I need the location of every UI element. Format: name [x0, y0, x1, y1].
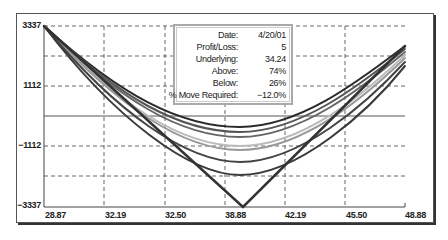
y-tick-label: 1112: [3, 80, 41, 90]
info-value-underlying: 34.24: [265, 54, 286, 64]
info-box: Date: 4/20/01 Profit/Loss: 5 Underlying:…: [173, 24, 293, 105]
info-value-below: 26%: [269, 78, 286, 88]
x-tick-label: 32.19: [105, 210, 126, 220]
y-tick-label: −1112: [3, 140, 41, 150]
info-value-profit-loss: 5: [281, 42, 286, 52]
info-label-above: Above:: [212, 66, 238, 76]
info-value-above: 74%: [269, 66, 286, 76]
x-tick-label: 38.88: [225, 210, 246, 220]
info-label-underlying: Underlying:: [196, 54, 238, 64]
info-value-date: 4/20/01: [258, 30, 286, 40]
info-label-move-required: % Move Required:: [169, 90, 238, 100]
info-label-profit-loss: Profit/Loss:: [197, 42, 238, 52]
info-label-date: Date:: [218, 30, 238, 40]
x-tick-label: 32.50: [165, 210, 186, 220]
x-tick-label: 48.88: [405, 210, 426, 220]
x-tick-label: 42.19: [285, 210, 306, 220]
info-value-move-required: −12.0%: [257, 90, 286, 100]
x-tick-label: 45.50: [346, 210, 367, 220]
x-tick-label: 28.87: [45, 210, 66, 220]
info-label-below: Below:: [213, 78, 238, 88]
y-tick-label: 3337: [3, 20, 41, 30]
y-tick-label: −3337: [3, 200, 41, 210]
